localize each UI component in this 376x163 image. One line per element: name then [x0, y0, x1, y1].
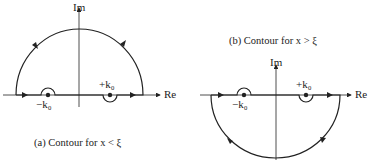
im-axis-label-b: Im: [270, 56, 282, 68]
pole-pos-label-a: +k₀: [99, 78, 115, 90]
caption-a: (a) Contour for x < ξ: [34, 137, 121, 148]
panel-a: [3, 8, 160, 107]
re-axis-label-b: Re: [355, 88, 367, 100]
caption-b: (b) Contour for x > ξ: [229, 35, 317, 46]
pole-neg-label-a: −k₀: [36, 98, 52, 110]
pole-neg-label-b: −k₀: [232, 98, 248, 110]
im-axis-label-a: Im: [73, 1, 85, 13]
re-axis-label-a: Re: [164, 88, 176, 100]
panel-b: [200, 65, 351, 160]
pole-pos-label-b: +k₀: [296, 78, 312, 90]
